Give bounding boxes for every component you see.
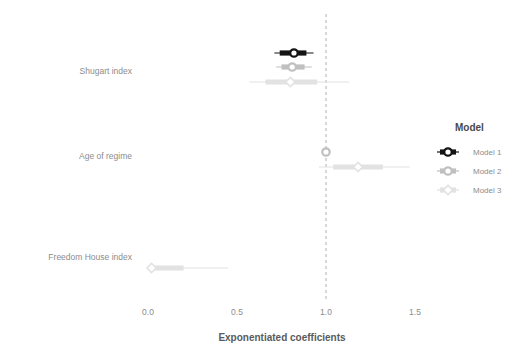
point-estimate-circle bbox=[288, 63, 295, 70]
point-estimate-circle bbox=[290, 49, 297, 56]
legend-title: Model bbox=[455, 122, 484, 133]
x-tick-label: 1.0 bbox=[320, 307, 332, 317]
y-tick-label: Freedom House index bbox=[48, 252, 132, 262]
x-tick-label: 0.5 bbox=[231, 307, 243, 317]
x-tick-label: 0.0 bbox=[142, 307, 154, 317]
legend-item-label: Model 3 bbox=[473, 186, 502, 195]
x-axis-title-text: Exponentiated coefficients bbox=[218, 332, 346, 343]
legend-item-label: Model 1 bbox=[473, 148, 502, 157]
plot-background bbox=[0, 0, 524, 363]
legend-key-circle bbox=[444, 148, 451, 155]
estimate-marker bbox=[322, 148, 331, 155]
legend-key-circle bbox=[444, 167, 451, 174]
point-estimate-circle bbox=[322, 148, 329, 155]
x-tick-label: 1.5 bbox=[409, 307, 421, 317]
y-tick-label: Age of regime bbox=[79, 151, 132, 161]
coefficient-plot: Shugart indexAge of regimeFreedom House … bbox=[0, 0, 524, 363]
legend-item-label: Model 2 bbox=[473, 167, 502, 176]
x-axis-title: Exponentiated coefficients bbox=[218, 332, 346, 343]
y-tick-label: Shugart index bbox=[80, 66, 133, 76]
